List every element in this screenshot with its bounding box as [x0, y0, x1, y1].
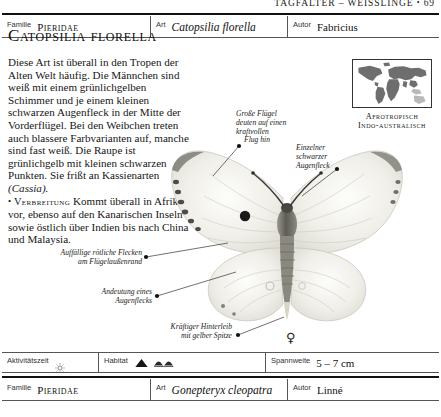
callout-line: Flug hin	[244, 136, 286, 145]
callout-line: mit gelber Spitze	[140, 332, 232, 341]
next-entry-rule	[2, 376, 439, 378]
next-art-cell: Art Gonepteryx cleopatra	[151, 379, 287, 400]
distribution-label: Verbreitung	[14, 196, 70, 207]
next-art-label: Art	[156, 383, 166, 392]
page-title: Catopsilia florella	[8, 26, 157, 46]
habitat-label: Habitat	[104, 356, 128, 365]
callout-single-black-eyespot: Einzelner schwarzer Augenfleck	[296, 144, 330, 170]
next-taxon-header-bar: Familie Pieridae Art Gonepteryx cleopatr…	[2, 379, 439, 401]
forewing-eyespot	[240, 211, 250, 221]
wingspan-value: 5 – 7 cm	[316, 357, 354, 369]
callout-large-wings: Große Flügel deuten auf einen kraftvolle…	[236, 110, 286, 145]
next-familie-cell: Familie Pieridae	[2, 379, 150, 400]
next-familie-value: Pieridae	[37, 384, 78, 396]
species-heading: Catopsilia florella	[8, 26, 157, 45]
world-map-svg	[353, 60, 431, 107]
bullet-icon: •	[8, 196, 11, 206]
running-head-page-number: 69	[424, 0, 435, 8]
autor-value: Fabricius	[317, 21, 358, 33]
next-autor-cell: Autor Linné	[288, 379, 439, 400]
description-host-plant: (Cassia).	[8, 182, 48, 194]
wingspan-cell: Spannweite 5 – 7 cm	[266, 353, 439, 372]
taxon-art-cell: Art Catopsilia florella	[151, 16, 287, 37]
habitat-cell: Habitat	[99, 353, 265, 372]
next-art-value: Gonepteryx cleopatra	[172, 384, 273, 396]
callout-line: am Flügelaußenrand	[44, 258, 142, 267]
art-value: Catopsilia florella	[172, 21, 256, 33]
attributes-bar: Aktivitätszeit Habitat	[2, 352, 439, 373]
distribution-map	[352, 59, 432, 108]
next-autor-label: Autor	[293, 383, 311, 392]
activity-label: Aktivitätszeit	[7, 356, 49, 365]
callout-line: Augenfleck	[296, 162, 330, 171]
art-label: Art	[156, 20, 166, 29]
running-head-bullet: •	[417, 0, 421, 7]
callout-strong-abdomen: Kräftiger Hinterleib mit gelber Spitze	[140, 323, 232, 341]
header-rule-top	[2, 13, 439, 15]
running-head: TAGFALTER – WEISSLINGE • 69	[0, 0, 441, 12]
callout-reddish-spots: Auffällige rötliche Flecken am Flügelauß…	[44, 249, 142, 267]
field-guide-page: TAGFALTER – WEISSLINGE • 69 Familie Pier…	[0, 0, 441, 417]
habitat-icon-group	[134, 358, 174, 368]
next-autor-value: Linné	[317, 384, 343, 396]
running-head-title: TAGFALTER – WEISSLINGE	[274, 0, 413, 8]
next-familie-label: Familie	[7, 383, 31, 392]
autor-label: Autor	[293, 20, 311, 29]
taxon-autor-cell: Autor Fabricius	[288, 16, 439, 37]
sex-symbol: ♀	[286, 330, 296, 345]
callout-hint-of-eyespot: Andeutung eines Augenflecks	[66, 288, 152, 306]
butterfly-specimen-image	[150, 120, 420, 345]
mountain-peak-icon	[134, 358, 149, 368]
low-hills-icon	[154, 359, 174, 368]
activity-cell: Aktivitätszeit	[2, 353, 98, 372]
callout-line: Augenflecks	[66, 297, 152, 306]
wingspan-label: Spannweite	[271, 356, 310, 365]
sun-icon	[55, 359, 64, 368]
